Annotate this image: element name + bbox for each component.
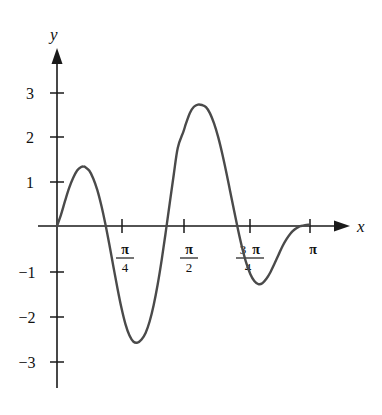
y-tick-label-neg1: −1 bbox=[18, 264, 35, 281]
x-axis: x bbox=[38, 217, 365, 236]
plot-area: y x 3 2 1 −1 −2 −3 π bbox=[0, 0, 382, 415]
data-curve bbox=[57, 104, 309, 342]
y-axis: y bbox=[48, 25, 63, 388]
x-tick-label-3pi-over-4-numerator: π bbox=[252, 242, 260, 257]
y-tick-label-neg3: −3 bbox=[18, 354, 35, 371]
y-tick-label-2: 2 bbox=[26, 129, 34, 146]
y-axis-arrow bbox=[52, 48, 63, 64]
x-tick-label-pi-over-4-numerator: π bbox=[121, 242, 129, 257]
x-tick-group: π 4 π 2 3 π 4 π bbox=[116, 219, 317, 275]
y-tick-label-1: 1 bbox=[26, 174, 34, 191]
y-tick-label-neg2: −2 bbox=[18, 309, 35, 326]
figure-container: y x 3 2 1 −1 −2 −3 π bbox=[0, 0, 382, 415]
x-axis-arrow bbox=[334, 221, 350, 232]
x-axis-label: x bbox=[356, 217, 365, 236]
y-tick-label-3: 3 bbox=[26, 85, 34, 102]
x-tick-label-pi-over-2-denominator: 2 bbox=[186, 260, 193, 275]
x-tick-label-pi: π bbox=[309, 242, 317, 257]
x-tick-label-pi-over-4-denominator: 4 bbox=[122, 260, 129, 275]
y-axis-label: y bbox=[48, 25, 58, 44]
x-tick-label-pi-over-2-numerator: π bbox=[185, 242, 193, 257]
